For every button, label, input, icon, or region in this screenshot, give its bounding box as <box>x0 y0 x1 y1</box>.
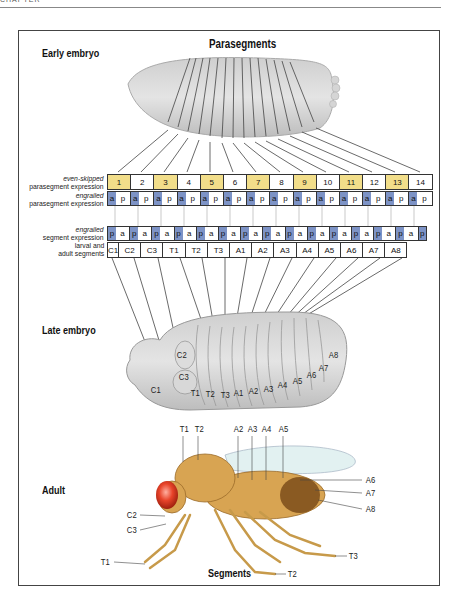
engrailed-seg-cell: pa <box>307 226 330 241</box>
segment-cell: A6 <box>340 242 363 258</box>
posterior-mark: p <box>162 192 176 205</box>
title-segments: Segments <box>208 567 251 579</box>
engrailed-ps-cell: ap <box>153 191 177 206</box>
anterior-mark: a <box>108 192 116 205</box>
anterior-mark: a <box>363 192 371 205</box>
adult-label-t2-leg: T2 <box>288 569 297 579</box>
posterior-mark: p <box>286 227 294 240</box>
parasegment-cell: 11 <box>339 174 363 190</box>
parasegment-cell: 1 <box>107 174 131 190</box>
anterior-mark: a <box>317 192 325 205</box>
engrailed-ps-cell: ap <box>177 191 201 206</box>
engrailed-ps-cell: ap <box>362 191 386 206</box>
parasegment-cell: 13 <box>385 174 409 190</box>
segment-row: C1C2C3T1T2T3A1A2A3A4A5A6A7A8 <box>107 242 406 258</box>
late-embryo-label: A2 <box>249 386 258 396</box>
anterior-mark: a <box>360 227 373 240</box>
parasegment-cell: 6 <box>223 174 247 190</box>
late-embryo-label: A7 <box>319 363 328 373</box>
parasegment-cell: 8 <box>269 174 293 190</box>
adult-label-a8: A8 <box>366 504 375 514</box>
anterior-mark: a <box>386 192 394 205</box>
anterior-mark: a <box>160 227 173 240</box>
posterior-mark: p <box>302 192 316 205</box>
posterior-mark: p <box>219 227 227 240</box>
parasegment-cell: 2 <box>130 174 154 190</box>
anterior-mark: a <box>270 192 278 205</box>
posterior-mark: p <box>209 192 223 205</box>
anterior-mark: a <box>201 192 209 205</box>
late-embryo-label: T3 <box>221 390 230 400</box>
adult-label-t2-top: T2 <box>195 424 204 434</box>
parasegment-cell: 3 <box>153 174 177 190</box>
engrailed-ps-cell: ap <box>385 191 409 206</box>
anterior-mark: a <box>294 227 307 240</box>
engrailed-seg-cell: pa <box>240 226 263 241</box>
label-en-parasegment: engrailed parasegment expression <box>30 192 104 208</box>
engrailed-ps-cell: ap <box>408 191 432 206</box>
segment-cell: T2 <box>185 242 208 258</box>
posterior-mark: p <box>394 192 408 205</box>
anterior-mark: a <box>294 192 302 205</box>
section-adult: Adult <box>42 484 65 496</box>
late-embryo-label: A1 <box>234 388 243 398</box>
posterior-mark: p <box>130 227 138 240</box>
anterior-mark: a <box>224 192 232 205</box>
anterior-mark: a <box>271 227 284 240</box>
late-embryo-label: A6 <box>307 370 316 380</box>
adult-label-a4: A4 <box>262 424 271 434</box>
posterior-mark: p <box>263 227 271 240</box>
anterior-mark: a <box>249 227 262 240</box>
engrailed-ps-cell: ap <box>269 191 293 206</box>
anterior-mark: a <box>404 227 417 240</box>
engrailed-ps-cell: ap <box>293 191 317 206</box>
parasegment-cell: 5 <box>200 174 224 190</box>
posterior-mark: p <box>417 192 431 205</box>
late-embryo-label: T2 <box>206 389 215 399</box>
label-eve: even-skipped parasegment expression <box>30 175 104 191</box>
posterior-mark: p <box>116 192 130 205</box>
posterior-mark: p <box>278 192 292 205</box>
posterior-mark: p <box>308 227 316 240</box>
title-parasegments: Parasegments <box>209 37 276 51</box>
parasegment-cell: 10 <box>316 174 340 190</box>
posterior-mark: p <box>152 227 160 240</box>
engrailed-seg-cell: pa <box>151 226 174 241</box>
posterior-mark: p <box>419 227 426 240</box>
late-embryo-label: T1 <box>191 388 200 398</box>
segment-cell: T3 <box>207 242 230 258</box>
adult-fly <box>114 436 362 574</box>
engrailed-seg-cell: pa <box>373 226 396 241</box>
engrailed-segment-row: papapapapapapapapapapapapapap <box>107 226 426 241</box>
adult-label-c2: C2 <box>127 510 137 520</box>
adult-label-t3-leg: T3 <box>349 551 358 561</box>
posterior-mark: p <box>371 192 385 205</box>
section-late-embryo: Late embryo <box>42 324 96 336</box>
segment-cell: A2 <box>251 242 274 258</box>
parasegment-cell: 12 <box>362 174 386 190</box>
anterior-mark: a <box>205 227 218 240</box>
engrailed-seg-cell: pa <box>329 226 352 241</box>
engrailed-ps-cell: ap <box>200 191 224 206</box>
posterior-mark: p <box>374 227 382 240</box>
engrailed-ps-cell: ap <box>223 191 247 206</box>
posterior-mark: p <box>396 227 404 240</box>
segment-cell: A1 <box>229 242 252 258</box>
posterior-mark: p <box>330 227 338 240</box>
engrailed-parasegment-row: apapapapapapapapapapapapapap <box>107 191 432 206</box>
label-seg-line2: adult segments <box>58 249 104 258</box>
adult-label-a3: A3 <box>248 424 257 434</box>
anterior-mark: a <box>409 192 417 205</box>
label-en-segment: engrailed segment expression <box>43 226 104 242</box>
parasegment-cell: 7 <box>246 174 270 190</box>
engrailed-ps-cell: ap <box>339 191 363 206</box>
alignment-lines <box>115 206 414 226</box>
adult-label-a7: A7 <box>366 488 375 498</box>
segment-cell: C3 <box>140 242 163 258</box>
anterior-mark: a <box>340 192 348 205</box>
engrailed-seg-cell: pa <box>285 226 308 241</box>
posterior-mark: p <box>325 192 339 205</box>
anterior-mark: a <box>338 227 351 240</box>
anterior-mark: a <box>227 227 240 240</box>
parasegment-row: 1234567891011121314 <box>107 174 432 190</box>
